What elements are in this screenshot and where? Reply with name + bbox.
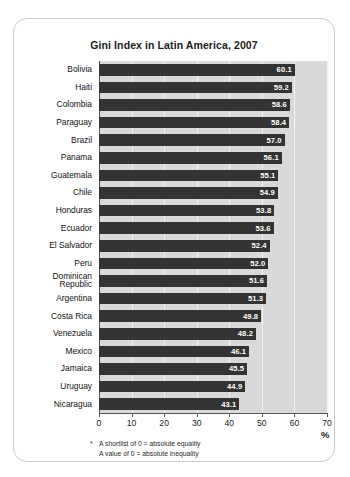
bar: 45.5: [99, 363, 247, 375]
gridline-10: [132, 61, 133, 413]
bar: 57.0: [99, 134, 285, 146]
bar-value-label: 52.0: [250, 259, 265, 268]
category-label: Guatemala: [19, 171, 92, 180]
category-label: Paraguay: [19, 118, 92, 127]
footnote-text-1: A shortlist of 0 = absolute equality: [99, 440, 200, 447]
x-tick-0: [99, 413, 100, 417]
category-label: Honduras: [19, 206, 92, 215]
bar-value-label: 58.6: [272, 100, 287, 109]
category-label: Venezuela: [19, 329, 92, 338]
bar-value-label: 56.1: [264, 153, 279, 162]
bar-value-label: 55.1: [260, 171, 275, 180]
footnote-marker: *: [90, 439, 99, 449]
bar-value-label: 51.3: [248, 294, 263, 303]
footnote-line-1: *A shortlist of 0 = absolute equality: [90, 439, 330, 449]
bar: 54.9: [99, 187, 278, 199]
category-label: Costa Rica: [19, 312, 92, 321]
chart-page: Gini Index in Latin America, 2007 Bolivi…: [0, 0, 350, 477]
category-label: Jamaica: [19, 364, 92, 373]
bar-value-label: 53.6: [255, 224, 270, 233]
category-label: Colombia: [19, 100, 92, 109]
x-tick-70: [327, 413, 328, 417]
plot-area: 60.159.258.658.457.056.155.154.953.853.6…: [99, 61, 327, 413]
bar-value-label: 44.9: [227, 382, 242, 391]
x-tick-30: [197, 413, 198, 417]
x-tick-label: 10: [127, 418, 137, 428]
category-label: Peru: [19, 259, 92, 268]
x-tick-40: [229, 413, 230, 417]
x-tick-label: 20: [159, 418, 169, 428]
bar: 43.1: [99, 398, 239, 410]
category-label: Ecuador: [19, 224, 92, 233]
bar-value-label: 48.2: [238, 329, 253, 338]
chart-card: Gini Index in Latin America, 2007 Bolivi…: [13, 18, 335, 462]
bar-value-label: 45.5: [229, 364, 244, 373]
category-label: Brazil: [19, 136, 92, 145]
bar: 44.9: [99, 381, 245, 393]
bar-value-label: 49.8: [243, 312, 258, 321]
x-tick-50: [262, 413, 263, 417]
category-label: Argentina: [19, 294, 92, 303]
x-axis: 010203040506070: [99, 413, 327, 414]
plot-inner: 60.159.258.658.457.056.155.154.953.853.6…: [99, 61, 327, 413]
gridline-60: [294, 61, 295, 413]
category-label: Haiti: [19, 83, 92, 92]
bar: 52.4: [99, 240, 270, 252]
x-tick-label: 70: [322, 418, 332, 428]
category-label: El Salvador: [19, 241, 92, 250]
x-tick-label: 30: [192, 418, 202, 428]
bar: 51.3: [99, 293, 266, 305]
bar: 52.0: [99, 258, 268, 270]
bar: 46.1: [99, 346, 249, 358]
x-tick-label: 0: [97, 418, 102, 428]
gridline-30: [197, 61, 198, 413]
x-tick-60: [294, 413, 295, 417]
bar-value-label: 60.1: [277, 65, 292, 74]
category-label: Uruguay: [19, 382, 92, 391]
category-label: Panama: [19, 153, 92, 162]
bar: 53.6: [99, 222, 274, 234]
category-label: Chile: [19, 188, 92, 197]
chart-title: Gini Index in Latin America, 2007: [14, 39, 334, 51]
category-label-column: BoliviaHaitiColombiaParaguayBrazilPanama…: [23, 61, 96, 413]
bar-value-label: 54.9: [260, 188, 275, 197]
gridline-70: [327, 61, 328, 413]
bar-value-label: 59.2: [274, 83, 289, 92]
category-label: Dominican Republic: [19, 272, 92, 289]
bar: 59.2: [99, 82, 292, 94]
bar: 58.6: [99, 99, 290, 111]
footnote-text-2: A value of 0 = absolute inequality: [99, 450, 199, 457]
bar-value-label: 58.4: [271, 118, 286, 127]
bar: 51.6: [99, 275, 267, 287]
x-tick-label: 50: [257, 418, 267, 428]
bar: 60.1: [99, 64, 295, 76]
category-label: Bolivia: [19, 65, 92, 74]
x-tick-20: [164, 413, 165, 417]
category-label: Nicaragua: [19, 400, 92, 409]
bar-value-label: 57.0: [266, 136, 281, 145]
bar: 55.1: [99, 170, 278, 182]
bar: 53.8: [99, 205, 274, 217]
chart-body: BoliviaHaitiColombiaParaguayBrazilPanama…: [23, 61, 327, 413]
category-label: Mexico: [19, 347, 92, 356]
bar-value-label: 51.6: [249, 276, 264, 285]
chart-footnotes: *A shortlist of 0 = absolute equality A …: [90, 439, 330, 459]
bar-value-label: 52.4: [251, 241, 266, 250]
bar-value-label: 46.1: [231, 347, 246, 356]
gridline-50: [262, 61, 263, 413]
x-tick-label: 40: [225, 418, 235, 428]
bar: 49.8: [99, 310, 261, 322]
bar-value-label: 53.8: [256, 206, 271, 215]
bar: 58.4: [99, 117, 289, 129]
gridline-40: [229, 61, 230, 413]
x-tick-10: [132, 413, 133, 417]
gridline-20: [164, 61, 165, 413]
y-axis-line: [99, 61, 100, 413]
bar-value-label: 43.1: [221, 400, 236, 409]
x-tick-label: 60: [290, 418, 300, 428]
bar: 48.2: [99, 328, 256, 340]
bar: 56.1: [99, 152, 282, 164]
footnote-line-2: A value of 0 = absolute inequality: [90, 449, 330, 459]
